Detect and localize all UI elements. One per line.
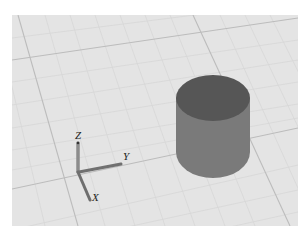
x-axis-label: X [91,191,100,203]
grid-minor [12,15,298,226]
x-axis [78,172,90,200]
y-axis [79,164,121,172]
y-axis-label: Y [123,150,131,162]
z-axis-label: Z [75,129,82,141]
axes-gizmo: Z Y X [75,129,131,203]
cylinder-top [176,75,250,121]
cylinder-object[interactable] [176,75,250,178]
scene-canvas[interactable]: Z Y X [12,15,298,226]
3d-viewport[interactable]: Z Y X [12,15,298,226]
